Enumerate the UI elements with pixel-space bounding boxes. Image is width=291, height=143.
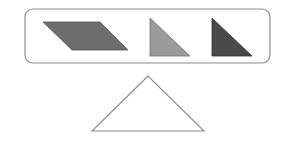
figure <box>0 0 291 143</box>
target-outline-triangle <box>92 76 204 131</box>
